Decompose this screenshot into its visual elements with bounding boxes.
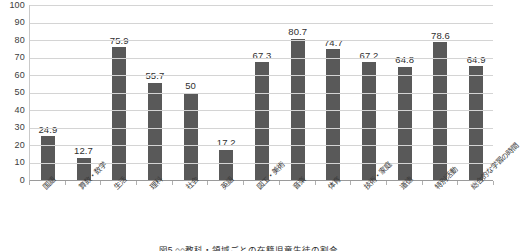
bar[interactable] bbox=[112, 47, 126, 180]
y-tick-label: 70 bbox=[15, 53, 25, 62]
gridline bbox=[30, 145, 493, 146]
gridline bbox=[30, 40, 493, 41]
x-tick-mark bbox=[172, 181, 173, 185]
gridline bbox=[30, 93, 493, 94]
bar[interactable] bbox=[41, 136, 55, 180]
gridline bbox=[30, 58, 493, 59]
x-tick-mark bbox=[136, 181, 137, 185]
x-tick-mark bbox=[493, 181, 494, 185]
bar-value-label: 80.7 bbox=[288, 27, 307, 37]
bar[interactable] bbox=[326, 49, 340, 180]
x-tick-mark bbox=[100, 181, 101, 185]
x-tick-mark bbox=[350, 181, 351, 185]
x-tick-mark bbox=[457, 181, 458, 185]
y-tick-label: 10 bbox=[15, 158, 25, 167]
y-tick-label: 0 bbox=[20, 176, 25, 185]
x-tick-mark bbox=[386, 181, 387, 185]
gridline bbox=[30, 110, 493, 111]
y-tick-label: 50 bbox=[15, 88, 25, 97]
figure-caption: 図5 ○○教科・領域ごとの在籍児童生徒の割合 bbox=[0, 243, 497, 251]
gridline bbox=[30, 128, 493, 129]
bar-value-label: 64.9 bbox=[467, 55, 486, 65]
y-tick-label: 80 bbox=[15, 36, 25, 45]
bar[interactable] bbox=[433, 42, 447, 180]
bar-value-label: 17.2 bbox=[217, 138, 236, 148]
bar-value-label: 24.9 bbox=[38, 125, 57, 135]
y-tick-label: 90 bbox=[15, 18, 25, 27]
x-axis-labels: 国語算数・数学生活理科社会英語図工・美術音楽体育技術・家庭道徳特別活動総合的な学… bbox=[29, 186, 493, 242]
y-tick-label: 40 bbox=[15, 106, 25, 115]
y-axis: 0102030405060708090100 bbox=[0, 0, 28, 182]
bar-value-label: 67.2 bbox=[360, 51, 379, 61]
gridline bbox=[30, 23, 493, 24]
bar-value-label: 67.3 bbox=[253, 51, 272, 61]
x-tick-mark bbox=[207, 181, 208, 185]
bar[interactable] bbox=[184, 93, 198, 181]
y-tick-label: 100 bbox=[9, 1, 25, 10]
bar[interactable] bbox=[148, 83, 162, 180]
x-tick-mark bbox=[65, 181, 66, 185]
plot-area: 24.912.775.955.75017.267.380.774.767.264… bbox=[29, 5, 493, 181]
x-tick-mark bbox=[29, 181, 30, 185]
gridline bbox=[30, 75, 493, 76]
bar-value-label: 50 bbox=[185, 81, 196, 91]
x-tick-mark bbox=[422, 181, 423, 185]
y-tick-label: 60 bbox=[15, 71, 25, 80]
y-tick-label: 20 bbox=[15, 141, 25, 150]
x-tick-mark bbox=[243, 181, 244, 185]
bar[interactable] bbox=[219, 150, 233, 180]
gridline bbox=[30, 5, 493, 6]
bar-value-label: 12.7 bbox=[74, 146, 93, 156]
x-tick-mark bbox=[315, 181, 316, 185]
y-tick-label: 30 bbox=[15, 123, 25, 132]
x-tick-mark bbox=[279, 181, 280, 185]
